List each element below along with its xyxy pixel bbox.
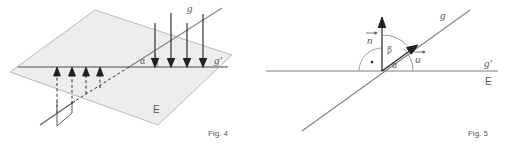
figure-4-drawing: α: [0, 0, 254, 148]
vector-n-accent-head: [375, 31, 379, 34]
figure-5-drawing: α β n u g g′ E Fig. 5: [254, 0, 508, 148]
line-g-label: g: [440, 9, 446, 21]
vector-n-label-group: n: [366, 31, 378, 46]
angle-beta-arc: [382, 35, 408, 46]
vector-u-label: u: [415, 53, 421, 65]
line-g-prime-label: g′: [214, 54, 223, 66]
figure-5-caption: Fig. 5: [468, 129, 489, 138]
vector-n: [378, 17, 385, 71]
vector-n-label: n: [367, 34, 373, 46]
line-g-prime-label: g′: [484, 57, 493, 69]
plane-E-label: E: [485, 76, 492, 87]
line-g-label: g: [187, 2, 193, 14]
plane-E-label: E: [153, 104, 160, 115]
vector-u-label-group: u: [414, 50, 426, 65]
vector-u-accent-head: [423, 50, 427, 53]
right-angle-arc: [359, 48, 382, 71]
figure-4-caption: Fig. 4: [208, 129, 229, 138]
angle-beta-label: β: [387, 45, 392, 55]
right-angle-dot-icon: [371, 61, 373, 63]
angle-alpha-label: α: [140, 56, 145, 66]
figure-5-panel: α β n u g g′ E Fig. 5: [254, 0, 508, 148]
figure-4-panel: α: [0, 0, 254, 148]
angle-alpha-label: α: [392, 60, 397, 70]
figure-sheet: α: [0, 0, 508, 148]
